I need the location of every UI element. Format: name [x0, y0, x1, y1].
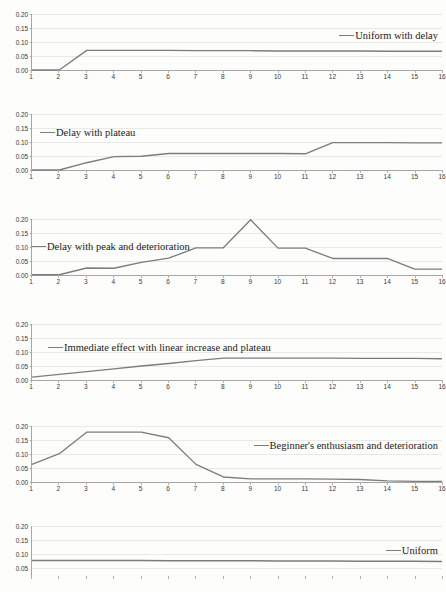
x-tick-mark	[58, 576, 59, 579]
x-tick-label: 15	[411, 485, 418, 492]
x-tick-label: 3	[84, 383, 88, 390]
data-series-line	[32, 14, 442, 70]
x-tick-label: 2	[57, 485, 61, 492]
x-tick-label: 2	[57, 73, 61, 80]
x-tick-label: 4	[111, 278, 115, 285]
x-tick-label: 8	[221, 73, 225, 80]
x-tick-label: 4	[111, 383, 115, 390]
y-tick-label: 0.00	[16, 167, 28, 174]
x-tick-label: 9	[248, 173, 252, 180]
y-tick-label: 0.15	[16, 230, 28, 237]
x-tick-label: 6	[166, 383, 170, 390]
y-tick-label: 0.20	[16, 523, 28, 530]
x-axis: 12345678910111213141516	[31, 482, 442, 494]
y-tick-label: 0.20	[16, 11, 28, 18]
x-tick-label: 13	[356, 383, 363, 390]
x-tick-mark	[168, 576, 169, 579]
x-tick-label: 13	[356, 73, 363, 80]
legend-label: Delay with plateau	[56, 127, 135, 138]
y-tick-label: 0.10	[16, 551, 28, 558]
x-tick-label: 15	[411, 278, 418, 285]
x-tick-label: 6	[166, 278, 170, 285]
x-tick-label: 7	[194, 73, 198, 80]
y-tick-label: 0.00	[16, 67, 28, 74]
x-tick-label: 12	[329, 173, 336, 180]
x-tick-label: 9	[248, 383, 252, 390]
x-tick-label: 12	[329, 73, 336, 80]
y-axis-labels: 0.000.050.100.150.20	[0, 324, 28, 380]
x-tick-label: 5	[139, 485, 143, 492]
x-tick-label: 1	[29, 485, 33, 492]
y-tick-label: 0.00	[16, 479, 28, 486]
x-tick-label: 14	[384, 485, 391, 492]
x-tick-label: 8	[221, 278, 225, 285]
x-tick-label: 11	[302, 485, 309, 492]
chart-panel-4: 0.000.050.100.150.2012345678910111213141…	[0, 310, 446, 409]
legend-label: Uniform	[402, 545, 438, 556]
x-tick-label: 3	[84, 485, 88, 492]
y-axis-labels: 0.000.050.100.150.20	[0, 426, 28, 482]
x-tick-label: 3	[84, 73, 88, 80]
x-tick-label: 5	[139, 278, 143, 285]
y-tick-label: 0.20	[16, 111, 28, 118]
x-tick-label: 13	[356, 173, 363, 180]
y-tick-label: 0.10	[16, 139, 28, 146]
y-tick-label: 0.05	[16, 53, 28, 60]
y-tick-label: 0.10	[16, 39, 28, 46]
x-tick-label: 1	[29, 383, 33, 390]
x-tick-mark	[195, 576, 196, 579]
x-tick-label: 7	[194, 278, 198, 285]
x-tick-mark	[442, 576, 443, 579]
x-tick-label: 2	[57, 383, 61, 390]
plot-area	[31, 526, 442, 576]
x-tick-label: 10	[274, 173, 281, 180]
x-tick-label: 8	[221, 383, 225, 390]
x-axis: 12345678910111213141516	[31, 275, 442, 287]
x-tick-label: 7	[194, 383, 198, 390]
y-tick-label: 0.10	[16, 349, 28, 356]
x-tick-label: 14	[384, 173, 391, 180]
x-tick-label: 4	[111, 173, 115, 180]
x-tick-label: 15	[411, 383, 418, 390]
x-tick-mark	[250, 576, 251, 579]
legend: Delay with peak and deterioration	[31, 241, 190, 252]
x-tick-label: 11	[302, 383, 309, 390]
y-axis-labels: 0.050.100.150.20	[0, 526, 28, 582]
legend-line-icon	[339, 35, 354, 36]
x-tick-mark	[305, 576, 306, 579]
x-tick-label: 13	[356, 485, 363, 492]
x-tick-label: 14	[384, 73, 391, 80]
y-tick-label: 0.00	[16, 272, 28, 279]
x-tick-label: 15	[411, 73, 418, 80]
x-tick-label: 12	[329, 383, 336, 390]
chart-panel-6: 0.050.100.150.20Uniform	[0, 512, 446, 592]
y-tick-label: 0.10	[16, 451, 28, 458]
x-tick-label: 3	[84, 173, 88, 180]
x-tick-label: 10	[274, 278, 281, 285]
legend-label: Delay with peak and deterioration	[47, 241, 190, 252]
legend: Uniform	[386, 545, 438, 556]
y-tick-label: 0.05	[16, 363, 28, 370]
x-tick-mark	[360, 576, 361, 579]
x-tick-mark	[387, 576, 388, 579]
x-tick-label: 14	[384, 383, 391, 390]
x-tick-mark	[332, 576, 333, 579]
data-series-line	[32, 526, 442, 576]
x-axis	[31, 576, 442, 588]
data-series-line	[32, 426, 442, 482]
y-tick-label: 0.15	[16, 25, 28, 32]
y-tick-label: 0.05	[16, 465, 28, 472]
legend: Beginner's enthusiasm and deterioration	[254, 440, 438, 451]
legend-line-icon	[48, 347, 63, 348]
x-tick-label: 5	[139, 383, 143, 390]
y-axis-labels: 0.000.050.100.150.20	[0, 219, 28, 275]
x-tick-label: 10	[274, 383, 281, 390]
x-tick-label: 12	[329, 485, 336, 492]
x-tick-label: 9	[248, 73, 252, 80]
x-tick-label: 12	[329, 278, 336, 285]
x-tick-label: 11	[302, 278, 309, 285]
y-tick-label: 0.20	[16, 216, 28, 223]
x-tick-label: 1	[29, 278, 33, 285]
x-tick-label: 2	[57, 173, 61, 180]
x-tick-label: 3	[84, 278, 88, 285]
